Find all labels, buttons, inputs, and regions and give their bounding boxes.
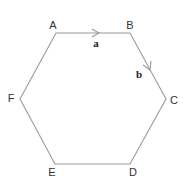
hexagon-outline — [20, 33, 166, 164]
hexagon-diagram: A B C D E F a b — [0, 0, 187, 189]
vertex-label-e: E — [48, 166, 55, 178]
vertex-label-c: C — [170, 94, 178, 106]
vector-label-b: b — [136, 68, 142, 80]
arrow-bc-icon — [143, 61, 151, 70]
vertex-label-a: A — [49, 19, 57, 31]
vertex-label-f: F — [8, 92, 15, 104]
vertex-label-b: B — [126, 19, 133, 31]
vector-label-a: a — [93, 37, 99, 49]
vertex-label-d: D — [129, 166, 137, 178]
